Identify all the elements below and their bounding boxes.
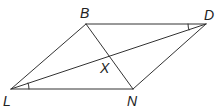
vertex-label-b: B [80, 6, 89, 20]
side-lb [11, 24, 86, 89]
angle-mark-d [188, 24, 189, 30]
diagram-canvas [0, 0, 223, 110]
vertex-label-l: L [3, 94, 11, 108]
diagonal-ld [11, 24, 206, 89]
vertex-label-n: N [127, 94, 137, 108]
angle-mark-l [28, 83, 29, 89]
side-dn [133, 24, 206, 89]
parallelogram-diagram: B D L N X [0, 0, 223, 110]
intersection-label-x: X [100, 61, 109, 75]
vertex-label-d: D [204, 8, 214, 22]
